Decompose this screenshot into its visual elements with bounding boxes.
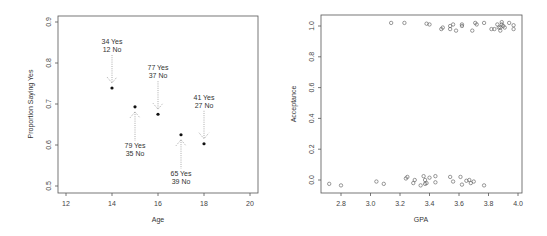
y-tick-label: 0.8 xyxy=(308,52,315,62)
left-x-axis-title: Age xyxy=(152,216,165,224)
yes-count-label: 65 Yes xyxy=(170,170,192,177)
no-count-label: 27 No xyxy=(195,102,214,109)
no-count-label: 12 No xyxy=(103,46,122,53)
x-tick-label: 14 xyxy=(108,200,116,207)
right-scatter-plot: 2.83.03.23.43.63.84.0 0.00.20.40.60.81.0… xyxy=(290,15,523,223)
x-tick-label: 3.2 xyxy=(395,200,405,207)
x-tick-label: 3.4 xyxy=(425,200,435,207)
data-point xyxy=(472,180,475,183)
data-point xyxy=(451,23,454,26)
x-tick-label: 20 xyxy=(246,200,254,207)
x-tick-label: 3.6 xyxy=(454,200,464,207)
data-point xyxy=(482,21,485,24)
data-point xyxy=(339,184,342,187)
count-annotation: 77 Yes37 No xyxy=(147,64,169,109)
yes-count-label: 79 Yes xyxy=(124,142,146,149)
right-y-axis: 0.00.20.40.60.81.0 xyxy=(308,21,321,185)
x-tick-label: 2.8 xyxy=(336,200,346,207)
data-point xyxy=(507,21,510,24)
right-x-axis-title: GPA xyxy=(414,216,429,223)
no-count-label: 35 No xyxy=(126,150,145,157)
left-x-axis: 1214161820 xyxy=(62,193,254,207)
data-point xyxy=(389,21,392,24)
data-point xyxy=(460,183,463,186)
data-point xyxy=(451,180,454,183)
data-point xyxy=(133,105,136,108)
data-point xyxy=(482,184,485,187)
yes-count-label: 77 Yes xyxy=(147,64,169,71)
y-tick-label: 0.0 xyxy=(308,175,315,185)
data-point xyxy=(428,176,431,179)
data-point xyxy=(328,182,331,185)
x-tick-label: 18 xyxy=(200,200,208,207)
left-y-axis-title: Proportion Saying Yes xyxy=(27,69,35,138)
data-point xyxy=(413,178,416,181)
y-tick-label: 0.6 xyxy=(308,83,315,93)
y-tick-label: 0.4 xyxy=(308,113,315,123)
count-annotation: 65 Yes39 No xyxy=(170,140,192,185)
data-point xyxy=(512,27,515,30)
y-tick-label: 1.0 xyxy=(308,21,315,31)
y-tick-label: 0.7 xyxy=(45,99,52,109)
data-point xyxy=(448,175,451,178)
x-tick-label: 3.0 xyxy=(366,200,376,207)
count-annotation: 79 Yes35 No xyxy=(124,112,146,157)
x-tick-label: 12 xyxy=(62,200,70,207)
data-point xyxy=(422,174,425,177)
y-tick-label: 0.8 xyxy=(45,58,52,68)
y-tick-label: 0.2 xyxy=(308,144,315,154)
left-plot-frame xyxy=(58,16,258,193)
data-point xyxy=(471,29,474,32)
data-point xyxy=(454,29,457,32)
y-tick-label: 0.6 xyxy=(45,140,52,150)
yes-count-label: 41 Yes xyxy=(193,94,215,101)
left-y-axis: 0.50.60.70.80.9 xyxy=(45,17,58,191)
data-point xyxy=(403,21,406,24)
annotations: 34 Yes12 No79 Yes35 No77 Yes37 No65 Yes3… xyxy=(101,38,215,185)
data-point xyxy=(459,175,462,178)
right-x-axis: 2.83.03.23.43.63.84.0 xyxy=(336,193,523,207)
figure: 1214161820 0.50.60.70.80.9 Age Proportio… xyxy=(0,0,547,236)
data-point xyxy=(419,184,422,187)
data-points xyxy=(328,20,516,187)
no-count-label: 37 No xyxy=(149,72,168,79)
data-point xyxy=(156,113,159,116)
data-point xyxy=(375,180,378,183)
x-tick-label: 4.0 xyxy=(513,200,523,207)
right-plot-frame xyxy=(321,15,522,193)
data-point xyxy=(512,24,515,27)
y-tick-label: 0.5 xyxy=(45,181,52,191)
data-point xyxy=(202,142,205,145)
x-tick-label: 16 xyxy=(154,200,162,207)
data-point xyxy=(382,182,385,185)
data-point xyxy=(434,181,437,184)
count-annotation: 41 Yes27 No xyxy=(193,94,215,139)
y-tick-label: 0.9 xyxy=(45,17,52,27)
data-point xyxy=(110,86,113,89)
right-y-axis-title: Acceptance xyxy=(290,86,298,123)
no-count-label: 39 No xyxy=(172,178,191,185)
data-point xyxy=(434,174,437,177)
count-annotation: 34 Yes12 No xyxy=(101,38,123,83)
data-point xyxy=(179,133,182,136)
left-scatter-plot: 1214161820 0.50.60.70.80.9 Age Proportio… xyxy=(27,16,258,224)
yes-count-label: 34 Yes xyxy=(101,38,123,45)
x-tick-label: 3.8 xyxy=(484,200,494,207)
